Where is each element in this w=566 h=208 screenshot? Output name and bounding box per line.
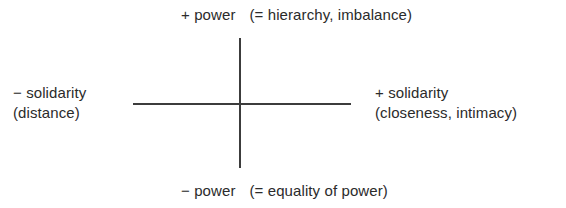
label-positive-solidarity-gloss: (closeness, intimacy) xyxy=(375,103,517,123)
label-negative-power-gloss: (= equality of power) xyxy=(249,182,387,199)
label-positive-power: + power(= hierarchy, imbalance) xyxy=(181,5,412,25)
label-positive-power-term: + power xyxy=(181,6,235,23)
label-positive-solidarity: + solidarity(closeness, intimacy) xyxy=(375,83,517,123)
label-negative-power-term: − power xyxy=(181,182,235,199)
label-negative-solidarity: − solidarity(distance) xyxy=(13,83,86,123)
label-negative-power: − power(= equality of power) xyxy=(181,181,388,201)
label-negative-solidarity-gloss: (distance) xyxy=(13,103,86,123)
label-negative-solidarity-term: − solidarity xyxy=(13,84,86,101)
power-solidarity-diagram: + power(= hierarchy, imbalance) − power(… xyxy=(0,0,566,208)
solidarity-axis-line xyxy=(133,103,351,105)
label-positive-solidarity-term: + solidarity xyxy=(375,84,448,101)
label-positive-power-gloss: (= hierarchy, imbalance) xyxy=(249,6,412,23)
